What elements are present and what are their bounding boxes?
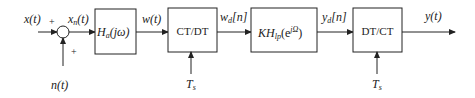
sign-plus-bottom: + [71,47,77,57]
label-noise-signal: n(t) [51,79,68,91]
block-dtfilter-label: KHlp(ejΩ) [258,26,302,41]
yd-arg: [n] [331,10,346,24]
label-sampled-signal: wd[n] [220,11,247,25]
kh-arg-open: (e [281,26,290,40]
wd-base: w [220,10,228,24]
ts1-sub: s [193,83,196,92]
block-antialias-label: Ha(jω) [97,26,129,40]
ts2-base: T [372,77,379,91]
ha-arg: (jω) [110,25,130,39]
sign-plus-top: + [49,17,55,27]
ha-base: H [97,25,106,39]
block-ctdt-label: CT/DT [168,26,217,37]
label-ts-ctdt: Ts [186,78,196,92]
kh-arg-close: ) [298,26,302,40]
xn-arg: (t) [77,12,88,26]
ts1-base: T [186,77,193,91]
label-filtered-signal: yd[n] [322,11,347,25]
block-dtct-label: DT/CT [353,26,402,37]
label-output-signal: y(t) [425,10,442,22]
wd-arg: [n] [232,10,247,24]
ts2-sub: s [379,83,382,92]
label-input-signal: x(t) [24,13,41,25]
label-noisy-input: xn(t) [68,13,89,27]
kh-base: KH [258,26,275,40]
label-prefilter-output: w(t) [142,13,161,25]
summing-junction [57,26,69,38]
label-ts-dtct: Ts [372,78,382,92]
